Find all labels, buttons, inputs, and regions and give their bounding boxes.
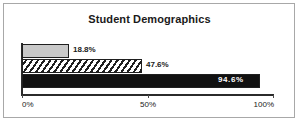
x-tick-label-100: 100% bbox=[254, 100, 274, 109]
bar-series-2 bbox=[22, 59, 142, 73]
chart-container: Student Demographics 0% 50% 100% 18.8% 4… bbox=[0, 0, 299, 122]
x-tick-100 bbox=[273, 95, 274, 98]
plot-area: 0% 50% 100% 18.8% 47.6% 94.6% bbox=[22, 43, 274, 95]
x-tick-label-0: 0% bbox=[22, 100, 34, 109]
x-tick-50 bbox=[148, 95, 149, 98]
bar-value-label: 94.6% bbox=[218, 75, 244, 84]
chart-title: Student Demographics bbox=[0, 13, 299, 25]
x-tick-label-50: 50% bbox=[140, 100, 156, 109]
bar-series-1 bbox=[22, 44, 69, 58]
x-tick-0 bbox=[22, 95, 23, 98]
bar-value-label: 47.6% bbox=[146, 60, 169, 69]
bar-value-label: 18.8% bbox=[73, 45, 96, 54]
